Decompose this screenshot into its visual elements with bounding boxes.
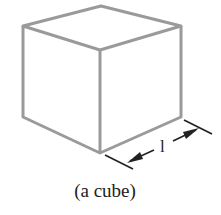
dimension-label: l <box>160 137 165 156</box>
figure-caption: (a cube) <box>0 180 210 202</box>
arrow-right-icon <box>183 128 199 139</box>
arrow-left-icon <box>127 152 143 163</box>
cube-top-face <box>23 6 181 50</box>
cube-outline <box>23 26 181 153</box>
cube-edges <box>23 6 181 153</box>
